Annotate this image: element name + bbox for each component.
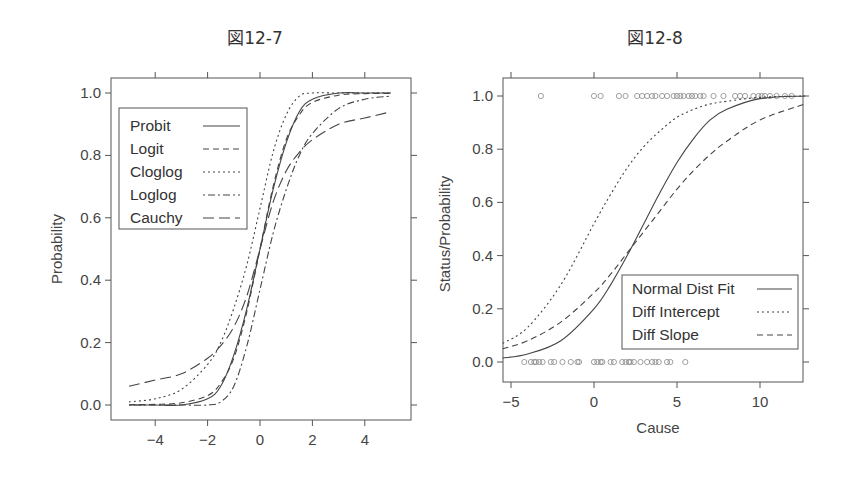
observation-point bbox=[645, 359, 650, 364]
observation-point bbox=[733, 93, 738, 98]
legend-label-cloglog: Cloglog bbox=[130, 163, 183, 180]
y-tick-label: 0.6 bbox=[80, 209, 101, 226]
x-tick-label: 0 bbox=[256, 431, 264, 448]
figure-title-12-7: 図12-7 bbox=[227, 28, 283, 48]
observation-point bbox=[701, 93, 706, 98]
observation-point bbox=[656, 359, 661, 364]
x-tick-label: 2 bbox=[308, 431, 316, 448]
x-tick-label: −2 bbox=[199, 431, 216, 448]
y-tick-label: 0.0 bbox=[80, 396, 101, 413]
x-tick-label: 4 bbox=[361, 431, 369, 448]
x-axis-label: Cause bbox=[636, 419, 679, 436]
observation-point bbox=[631, 359, 636, 364]
legend-label-diff-slope: Diff Slope bbox=[632, 326, 699, 343]
y-tick-label: 0.8 bbox=[472, 140, 493, 157]
legend-label-logit: Logit bbox=[130, 140, 164, 157]
legend-label-loglog: Loglog bbox=[130, 186, 177, 203]
observation-point bbox=[560, 359, 565, 364]
observation-point bbox=[540, 359, 545, 364]
y-axis-label: Probability bbox=[48, 213, 65, 284]
observation-point bbox=[711, 93, 716, 98]
observation-point bbox=[638, 359, 643, 364]
y-tick-label: 1.0 bbox=[80, 84, 101, 101]
x-tick-label: −4 bbox=[147, 431, 164, 448]
observation-point bbox=[737, 93, 742, 98]
observation-point bbox=[616, 93, 621, 98]
observation-point bbox=[683, 359, 688, 364]
legend-label-probit: Probit bbox=[130, 117, 171, 134]
legend-label-diff-intercept: Diff Intercept bbox=[632, 303, 720, 320]
observation-point bbox=[623, 93, 628, 98]
figure-title-12-8: 図12-8 bbox=[627, 28, 683, 48]
observation-point bbox=[591, 93, 596, 98]
legend-label-normal-dist-fit: Normal Dist Fit bbox=[632, 280, 735, 297]
y-tick-label: 0.6 bbox=[472, 193, 493, 210]
observation-point bbox=[653, 93, 658, 98]
y-tick-label: 1.0 bbox=[472, 87, 493, 104]
y-tick-label: 0.4 bbox=[80, 271, 101, 288]
observation-point bbox=[659, 93, 664, 98]
observation-point bbox=[668, 359, 673, 364]
observation-point bbox=[598, 93, 603, 98]
observation-point bbox=[774, 93, 779, 98]
legend-label-cauchy: Cauchy bbox=[130, 209, 183, 226]
observation-point bbox=[522, 359, 527, 364]
observation-point bbox=[645, 93, 650, 98]
observation-point bbox=[664, 93, 669, 98]
x-tick-label: 5 bbox=[673, 393, 681, 410]
x-tick-label: −5 bbox=[502, 393, 519, 410]
y-tick-label: 0.2 bbox=[472, 300, 493, 317]
observation-point bbox=[568, 359, 573, 364]
observation-point bbox=[640, 93, 645, 98]
observation-point bbox=[552, 359, 557, 364]
observation-point bbox=[538, 93, 543, 98]
y-tick-label: 0.4 bbox=[472, 247, 493, 264]
figure-canvas: 図12-7 図12-8 −4−20240.00.20.40.60.81.0 Pr… bbox=[0, 0, 850, 491]
y-tick-label: 0.8 bbox=[80, 146, 101, 163]
observation-point bbox=[635, 93, 640, 98]
y-tick-label: 0.2 bbox=[80, 334, 101, 351]
observation-point bbox=[611, 359, 616, 364]
x-tick-label: 10 bbox=[752, 393, 769, 410]
y-tick-label: 0.0 bbox=[472, 353, 493, 370]
observation-point bbox=[681, 93, 686, 98]
observation-point bbox=[721, 93, 726, 98]
chart-status-probability: −505100.00.20.40.60.81.0 Status/Probabil… bbox=[436, 72, 809, 436]
observation-point bbox=[742, 93, 747, 98]
y-axis-label: Status/Probability bbox=[436, 175, 453, 292]
observation-point bbox=[693, 93, 698, 98]
x-tick-label: 0 bbox=[590, 393, 598, 410]
chart-probability-links: −4−20240.00.20.40.60.81.0 Probability Pr… bbox=[48, 72, 417, 448]
